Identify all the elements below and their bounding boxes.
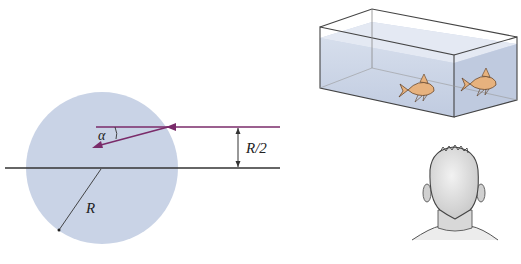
- figure-canvas: α R/2 R: [0, 0, 521, 264]
- observer-head-icon: [412, 145, 498, 240]
- head: [430, 147, 478, 219]
- dim-arrow-top-icon: [236, 128, 241, 134]
- dim-arrow-bottom-icon: [236, 161, 241, 167]
- radius-end-dot: [58, 229, 61, 232]
- radius-label: R: [85, 200, 95, 216]
- fish-tank: [320, 9, 517, 117]
- offset-label: R/2: [245, 140, 267, 156]
- angle-label: α: [98, 128, 106, 143]
- refraction-diagram: α R/2 R: [5, 92, 280, 244]
